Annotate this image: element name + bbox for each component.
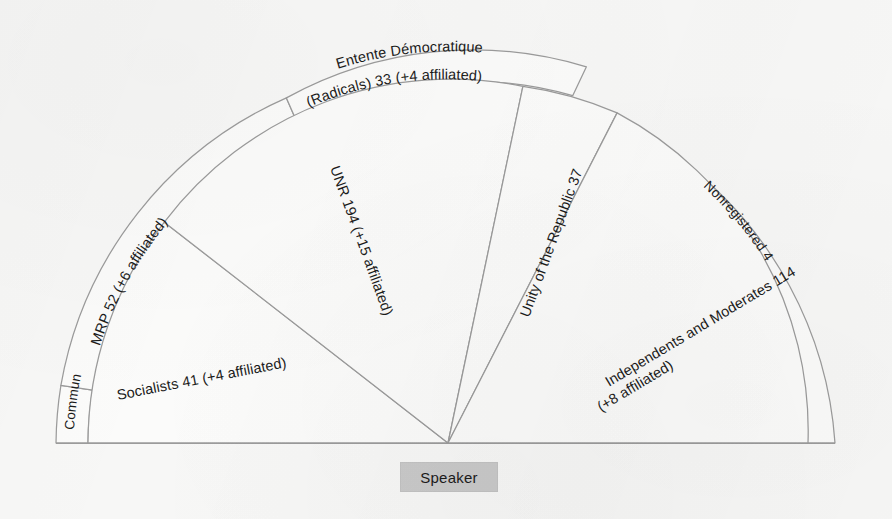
speaker-label: Speaker bbox=[420, 469, 477, 486]
speaker-box[interactable]: Speaker bbox=[400, 462, 498, 492]
hemicycle-chart: Communists 10 MRP 52 (+6 affiliated) Ent… bbox=[0, 0, 892, 519]
hemicycle-diagram-page: Communists 10 MRP 52 (+6 affiliated) Ent… bbox=[0, 0, 892, 519]
